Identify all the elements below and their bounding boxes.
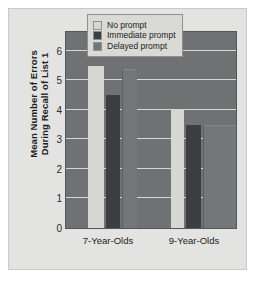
legend-swatch-delayed-prompt <box>93 42 102 51</box>
bar-9-year-olds-no-prompt <box>171 110 184 228</box>
legend-item-delayed-prompt: Delayed prompt <box>93 42 176 51</box>
y-tick-1: 1 <box>56 194 62 204</box>
legend-label-immediate-prompt: Immediate prompt <box>107 31 176 40</box>
bar-9-year-olds-delayed-prompt <box>203 125 237 228</box>
chart-figure: Mean Number of Errors During Recall of L… <box>8 8 247 270</box>
y-tick-3: 3 <box>56 135 62 145</box>
bar-7-year-olds-no-prompt <box>88 66 104 229</box>
legend: No prompt Immediate prompt Delayed promp… <box>87 14 183 57</box>
legend-swatch-immediate-prompt <box>93 31 102 40</box>
legend-label-no-prompt: No prompt <box>107 21 147 30</box>
y-axis-tick-labels: 0 1 2 3 4 5 6 <box>45 9 62 271</box>
x-category-9-year-olds: 9-Year-Olds <box>151 231 237 251</box>
legend-item-no-prompt: No prompt <box>93 21 176 30</box>
legend-swatch-no-prompt <box>93 21 102 30</box>
legend-item-immediate-prompt: Immediate prompt <box>93 31 176 40</box>
y-tick-4: 4 <box>56 106 62 116</box>
plot-area <box>65 31 237 229</box>
x-category-7-year-olds: 7-Year-Olds <box>65 231 151 251</box>
x-axis-tick-labels: 7-Year-Olds 9-Year-Olds <box>65 231 237 251</box>
y-axis-title-line-1: Mean Number of Errors <box>28 50 40 158</box>
y-tick-2: 2 <box>56 165 62 175</box>
bar-7-year-olds-immediate-prompt <box>106 95 120 228</box>
legend-label-delayed-prompt: Delayed prompt <box>107 42 167 51</box>
y-tick-5: 5 <box>56 76 62 86</box>
y-tick-0: 0 <box>56 224 62 234</box>
bar-7-year-olds-delayed-prompt <box>122 69 137 229</box>
y-tick-6: 6 <box>56 47 62 57</box>
bar-9-year-olds-immediate-prompt <box>186 125 201 228</box>
